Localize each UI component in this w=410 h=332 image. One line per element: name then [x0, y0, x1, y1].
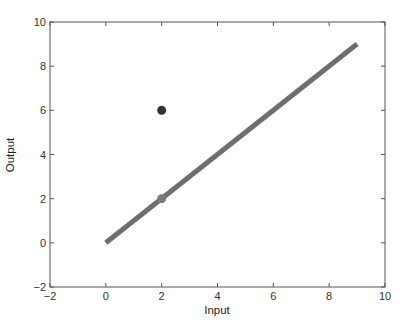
y-axis-label: Output: [4, 137, 16, 172]
y-tick-label: 2: [40, 193, 46, 205]
y-tick-label: 6: [40, 104, 46, 116]
x-tick-label: 2: [159, 290, 165, 302]
y-tick-label: −2: [33, 281, 46, 293]
x-tick-label: 4: [214, 290, 220, 302]
y-tick-label: 0: [40, 237, 46, 249]
data-line: [106, 44, 357, 243]
y-tick-label: 8: [40, 60, 46, 72]
x-tick-label: 10: [379, 290, 391, 302]
y-tick-label: 10: [34, 16, 46, 28]
data-point: [157, 106, 166, 115]
y-axis-ticks: −20246810: [33, 16, 385, 293]
x-tick-label: 6: [270, 290, 276, 302]
x-axis-ticks: −20246810: [44, 22, 391, 302]
plot-area: [50, 22, 385, 287]
chart: −20246810 −20246810 Input Output: [0, 0, 410, 332]
x-tick-label: 8: [326, 290, 332, 302]
x-tick-label: 0: [103, 290, 109, 302]
y-tick-label: 4: [40, 149, 46, 161]
data-point: [157, 194, 166, 203]
x-axis-label: Input: [204, 304, 230, 316]
